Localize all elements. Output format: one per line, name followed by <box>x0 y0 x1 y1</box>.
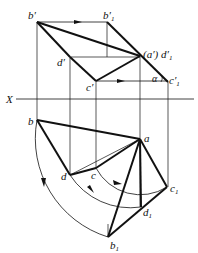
svg-text:d: d <box>61 170 67 182</box>
svg-text:b′: b′ <box>28 9 37 21</box>
arc-d-d1 <box>70 175 141 208</box>
arc-c-c1 <box>96 168 167 195</box>
label-d: d <box>61 170 67 182</box>
label-c: c <box>91 169 96 181</box>
label-a: a <box>144 132 150 144</box>
svg-text:X: X <box>5 93 14 105</box>
label-b1-prime-sub: 1 <box>111 15 115 23</box>
arc-b-b1 <box>35 120 108 237</box>
arrowhead-icon <box>74 20 82 24</box>
svg-text:c: c <box>91 169 96 181</box>
label-d-prime: d′ <box>57 56 66 68</box>
label-b: b <box>28 115 34 127</box>
arrowhead-icon <box>87 185 94 193</box>
svg-text:(a′) d′1: (a′) d′1 <box>143 48 172 62</box>
svg-text:d′: d′ <box>57 56 66 68</box>
label-b-prime: b′ <box>28 9 37 21</box>
rotation-diagram: b′ b′1 (a′) d′1 d′ c′ c′1 α X b a d c c1… <box>0 0 198 253</box>
svg-text:c′: c′ <box>86 81 94 93</box>
label-a-prime-d1-prime-sub: 1 <box>169 54 173 62</box>
svg-text:b: b <box>28 115 34 127</box>
label-c1-prime-sub: 1 <box>176 80 180 88</box>
label-d1-sub: 1 <box>149 212 153 220</box>
label-c-prime: c′ <box>86 81 94 93</box>
label-alpha: α <box>152 73 158 84</box>
edge-c-prime-a-prime <box>96 56 140 81</box>
svg-text:d1: d1 <box>143 206 152 220</box>
edge-d-prime-c-prime <box>70 57 96 81</box>
svg-text:c′1: c′1 <box>169 74 180 88</box>
edge-a-d1 <box>140 139 141 207</box>
svg-text:α: α <box>152 73 158 84</box>
label-x-axis: X <box>5 93 14 105</box>
label-c1-sub: 1 <box>175 188 179 196</box>
svg-text:b′1: b′1 <box>103 9 114 23</box>
svg-text:a: a <box>144 132 150 144</box>
arrowhead-icon <box>113 180 122 185</box>
edge-b-a <box>37 120 140 139</box>
label-b1-sub: 1 <box>116 245 120 253</box>
label-a-prime-d1-prime: (a′) d′ <box>143 48 169 61</box>
edge-b-d <box>37 120 70 175</box>
svg-text:b1: b1 <box>110 239 119 253</box>
edge-c-a <box>96 139 140 168</box>
edge-a-c1 <box>140 139 167 187</box>
svg-text:c1: c1 <box>170 182 178 196</box>
arrowhead-icon <box>117 79 125 83</box>
